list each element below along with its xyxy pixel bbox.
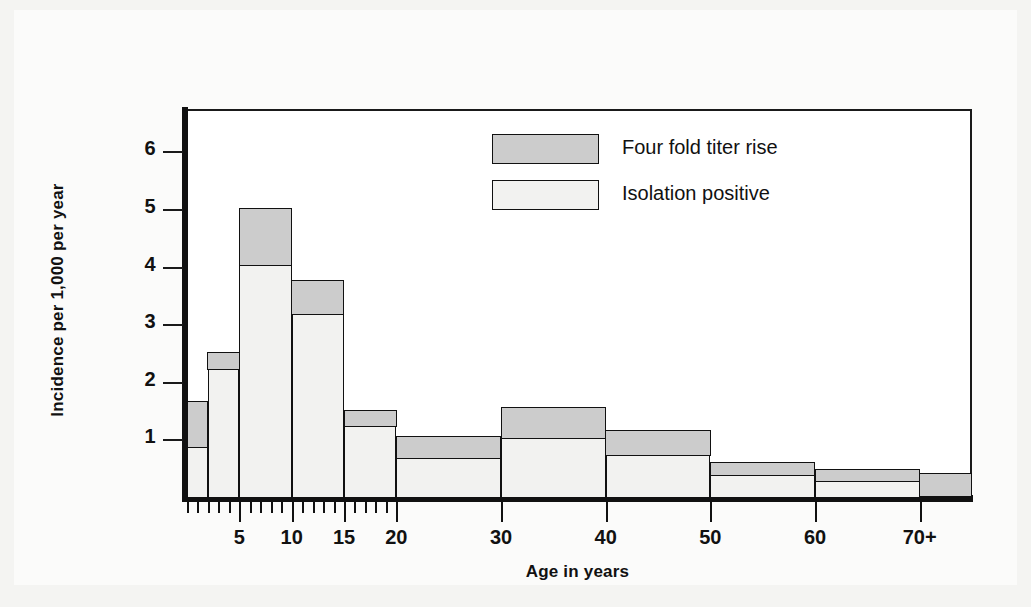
x-minor-tick-1	[197, 502, 199, 513]
bar-15-20	[344, 411, 396, 497]
y-tick-label-3: 3	[124, 310, 156, 333]
legend-label: Four fold titer rise	[622, 136, 778, 159]
x-minor-tick-13	[323, 502, 325, 513]
x-tick-label-60: 60	[785, 526, 845, 549]
y-tick-label-1: 1	[124, 425, 156, 448]
x-tick-label-30: 30	[471, 526, 531, 549]
x-tick-label-5: 5	[209, 526, 269, 549]
x-minor-tick-2	[208, 502, 210, 513]
bar-segment-four-fold-titer-rise	[815, 469, 921, 482]
y-tick-2	[163, 382, 183, 384]
legend-swatch-gray	[492, 134, 599, 164]
y-tick-1	[163, 439, 183, 441]
x-tick-30	[501, 502, 503, 522]
x-tick-15	[344, 502, 346, 522]
y-axis-title: Incidence per 1,000 per year	[48, 170, 68, 430]
x-tick-label-15: 15	[314, 526, 374, 549]
bar-40-50	[606, 431, 711, 497]
x-tick-label-10: 10	[262, 526, 322, 549]
y-tick-4	[163, 267, 183, 269]
bar-segment-four-fold-titer-rise	[187, 401, 209, 447]
y-tick-label-4: 4	[124, 253, 156, 276]
x-tick-70+	[920, 502, 922, 522]
x-minor-tick-9	[281, 502, 283, 513]
bar-60-70	[815, 470, 920, 497]
x-minor-tick-17	[365, 502, 367, 513]
bar-segment-four-fold-titer-rise	[710, 462, 816, 476]
bar-segment-four-fold-titer-rise	[239, 208, 292, 266]
x-tick-label-50: 50	[680, 526, 740, 549]
x-tick-50	[710, 502, 712, 522]
x-tick-label-70+: 70+	[890, 526, 950, 549]
x-minor-tick-18	[375, 502, 377, 513]
x-minor-tick-16	[354, 502, 356, 513]
y-tick-label-6: 6	[124, 137, 156, 160]
bar-30-40	[501, 408, 606, 497]
x-tick-5	[239, 502, 241, 522]
x-axis-title: Age in years	[182, 562, 973, 582]
y-tick-6	[163, 151, 183, 153]
x-tick-60	[815, 502, 817, 522]
bar-20-30	[396, 437, 501, 497]
bar-segment-four-fold-titer-rise	[919, 473, 972, 496]
legend-label: Isolation positive	[622, 182, 770, 205]
x-tick-20	[396, 502, 398, 522]
chart-page: 123456 Incidence per 1,000 per year 5101…	[0, 0, 1031, 607]
bar-50-60	[710, 462, 815, 497]
legend-swatch-white	[492, 180, 599, 210]
x-minor-tick-11	[302, 502, 304, 513]
chart-paper: 123456 Incidence per 1,000 per year 5101…	[14, 10, 1017, 585]
y-tick-5	[163, 209, 183, 211]
x-minor-tick-14	[334, 502, 336, 513]
x-tick-label-40: 40	[576, 526, 636, 549]
x-minor-tick-19	[386, 502, 388, 513]
x-tick-10	[292, 502, 294, 522]
x-minor-tick-6	[250, 502, 252, 513]
bar-0-2	[187, 402, 208, 497]
x-minor-tick-8	[271, 502, 273, 513]
x-tick-40	[606, 502, 608, 522]
bar-segment-four-fold-titer-rise	[344, 410, 397, 427]
bar-segment-four-fold-titer-rise	[396, 436, 502, 459]
bar-segment-four-fold-titer-rise	[207, 352, 239, 369]
y-tick-label-2: 2	[124, 368, 156, 391]
bar-10-15	[292, 281, 344, 497]
x-minor-tick-7	[260, 502, 262, 513]
x-minor-tick-12	[313, 502, 315, 513]
y-tick-3	[163, 324, 183, 326]
x-minor-tick-4	[229, 502, 231, 513]
x-tick-label-20: 20	[366, 526, 426, 549]
bar-70+	[920, 474, 972, 497]
bar-segment-four-fold-titer-rise	[291, 280, 344, 315]
bar-segment-four-fold-titer-rise	[605, 430, 711, 456]
x-minor-tick-3	[218, 502, 220, 513]
plot-area	[187, 111, 972, 497]
bar-2-5	[208, 353, 239, 497]
y-tick-label-5: 5	[124, 195, 156, 218]
x-minor-tick-0	[187, 502, 189, 513]
bar-segment-four-fold-titer-rise	[501, 407, 607, 439]
bar-5-10	[239, 209, 291, 497]
